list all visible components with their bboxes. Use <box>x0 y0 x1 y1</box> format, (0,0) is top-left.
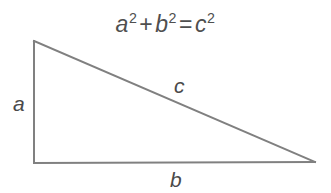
side-label-c: c <box>174 75 185 96</box>
triangle-shape <box>0 0 331 193</box>
triangle-side-b-horizontal-leg <box>34 162 315 163</box>
side-label-b: b <box>170 169 182 190</box>
side-label-a: a <box>13 93 25 114</box>
triangle-side-c-hypotenuse <box>34 41 315 162</box>
pythagorean-theorem-figure: a2+b2=c2 a b c <box>0 0 331 193</box>
